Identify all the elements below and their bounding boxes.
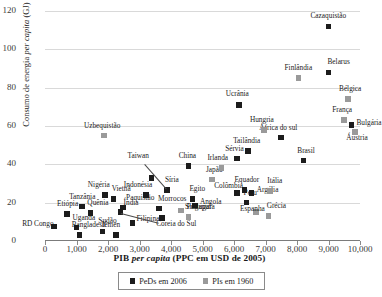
data-point-label: Sérvia bbox=[225, 145, 244, 153]
data-point-label: Grécia bbox=[267, 202, 286, 210]
gridline bbox=[45, 164, 360, 165]
data-point[interactable] bbox=[64, 211, 70, 217]
y-axis-title-italic: per capita bbox=[22, 20, 31, 55]
y-tick-label: 60 bbox=[0, 120, 16, 130]
data-point[interactable] bbox=[100, 229, 106, 235]
data-point[interactable] bbox=[209, 177, 215, 183]
data-point-label: Nigéria bbox=[88, 181, 110, 189]
x-axis-title-post: (PPC em USD de 2005) bbox=[170, 253, 265, 263]
y-tick-label: 120 bbox=[0, 5, 16, 15]
chart-legend: PeDs em 2006 PIs em 1960 bbox=[118, 272, 265, 290]
y-axis-title: Consumo de energia per capita (GJ) bbox=[22, 0, 31, 155]
data-point-label: Irlanda bbox=[207, 154, 228, 162]
data-point[interactable] bbox=[349, 122, 355, 128]
x-axis-title-italic: per capita bbox=[132, 253, 171, 263]
y-tick-label: 0 bbox=[0, 235, 16, 245]
data-point-label: Morrocos bbox=[158, 195, 186, 203]
data-point[interactable] bbox=[88, 210, 94, 216]
data-point[interactable] bbox=[245, 148, 251, 154]
legend-item-peds[interactable]: PeDs em 2006 bbox=[130, 277, 187, 286]
data-point-label: França bbox=[332, 106, 352, 114]
data-point-label: RD Congo bbox=[22, 220, 53, 228]
data-point-label: Belarus bbox=[328, 58, 350, 66]
data-point-label: Hungria bbox=[250, 116, 274, 124]
data-point[interactable] bbox=[79, 204, 85, 210]
legend-label-pis: PIs em 1960 bbox=[212, 277, 253, 286]
legend-swatch-pi-icon bbox=[203, 278, 208, 283]
x-axis-title-pre: PIB bbox=[114, 253, 132, 263]
data-point[interactable] bbox=[156, 206, 162, 212]
data-point[interactable] bbox=[345, 96, 351, 102]
gridline bbox=[45, 88, 360, 89]
y-tick-label: 40 bbox=[0, 158, 16, 168]
x-tick-label: 10,000 bbox=[338, 244, 382, 254]
data-point-label: Bulgária bbox=[356, 119, 381, 127]
data-point-label: Finlândia bbox=[285, 64, 313, 72]
data-point[interactable] bbox=[267, 188, 273, 194]
data-point-label: Coreia do Sul bbox=[156, 220, 196, 228]
y-tick-label: 100 bbox=[0, 43, 16, 53]
y-tick-label: 80 bbox=[0, 82, 16, 92]
data-point[interactable] bbox=[186, 163, 192, 169]
data-point[interactable] bbox=[178, 208, 184, 214]
data-point[interactable] bbox=[120, 205, 126, 211]
data-point-label: Equador bbox=[234, 176, 259, 184]
data-point-label: Egito bbox=[189, 185, 205, 193]
data-point-label: Iêmen bbox=[102, 221, 120, 229]
data-point[interactable] bbox=[341, 117, 347, 123]
data-point[interactable] bbox=[190, 196, 196, 202]
data-point[interactable] bbox=[102, 192, 108, 198]
data-point-label: Síria bbox=[165, 176, 179, 184]
data-point-label: Peru bbox=[244, 189, 257, 197]
gridline bbox=[45, 49, 360, 50]
data-point-label: Espanha bbox=[240, 205, 265, 213]
data-point[interactable] bbox=[186, 214, 192, 220]
data-point-label: Taiwan bbox=[127, 152, 148, 160]
data-point-label: Cazaquistão bbox=[311, 12, 347, 20]
data-point[interactable] bbox=[326, 24, 332, 30]
data-point[interactable] bbox=[296, 75, 302, 81]
data-point-label: Ucrânia bbox=[226, 90, 249, 98]
data-point-label: China bbox=[179, 152, 196, 160]
data-point[interactable] bbox=[101, 133, 107, 139]
data-point[interactable] bbox=[301, 158, 307, 164]
data-point[interactable] bbox=[77, 232, 83, 238]
data-point-label: Indonésia bbox=[124, 181, 152, 189]
data-point[interactable] bbox=[326, 70, 332, 76]
data-point[interactable] bbox=[234, 156, 240, 162]
data-point-label: Quênia bbox=[87, 199, 108, 207]
data-point-label: Uzbequistão bbox=[84, 122, 120, 130]
data-point-label: Portugal bbox=[187, 203, 212, 211]
data-point[interactable] bbox=[219, 165, 225, 171]
plot-area: RD CongoEtiópiaUgandaBangladeshTanzâniaQ… bbox=[45, 11, 360, 241]
legend-item-pis[interactable]: PIs em 1960 bbox=[203, 277, 253, 286]
data-point[interactable] bbox=[261, 127, 267, 133]
legend-label-peds: PeDs em 2006 bbox=[139, 277, 187, 286]
data-point[interactable] bbox=[130, 220, 136, 226]
data-point-label: Etiópia bbox=[57, 200, 78, 208]
data-point-label: Paquistão bbox=[126, 194, 154, 202]
y-axis-title-pre: Consumo de energia bbox=[22, 55, 31, 127]
data-point[interactable] bbox=[143, 192, 149, 198]
legend-swatch-ped-icon bbox=[130, 278, 135, 283]
data-point-label: Bélgica bbox=[339, 85, 361, 93]
y-tick-label: 20 bbox=[0, 197, 16, 207]
data-point[interactable] bbox=[113, 232, 119, 238]
data-point-label: Itália bbox=[267, 177, 282, 185]
data-point[interactable] bbox=[111, 196, 117, 202]
data-point-label: Brasil bbox=[297, 147, 314, 155]
data-point[interactable] bbox=[278, 135, 284, 141]
data-point[interactable] bbox=[234, 190, 240, 196]
x-axis-title: PIB per capita (PPC em USD de 2005) bbox=[0, 253, 379, 263]
data-point[interactable] bbox=[266, 213, 272, 219]
data-point[interactable] bbox=[236, 102, 242, 108]
y-axis-title-post: (GJ) bbox=[22, 2, 31, 19]
data-point-label: Áustria bbox=[346, 134, 367, 142]
